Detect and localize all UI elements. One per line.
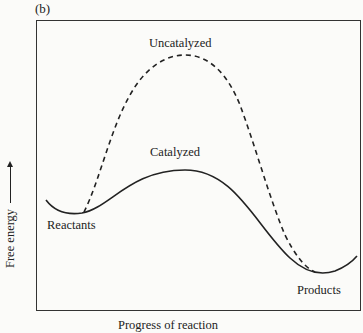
up-arrow-icon — [10, 163, 11, 203]
uncatalyzed-curve — [84, 55, 315, 272]
uncatalyzed-label: Uncatalyzed — [149, 36, 211, 51]
y-axis-label: Free energy — [3, 163, 18, 268]
products-label: Products — [297, 283, 341, 298]
x-axis-label: Progress of reaction — [118, 318, 218, 333]
y-axis-label-text: Free energy — [3, 209, 18, 268]
catalyzed-label: Catalyzed — [150, 145, 200, 160]
reactants-label: Reactants — [47, 218, 96, 233]
